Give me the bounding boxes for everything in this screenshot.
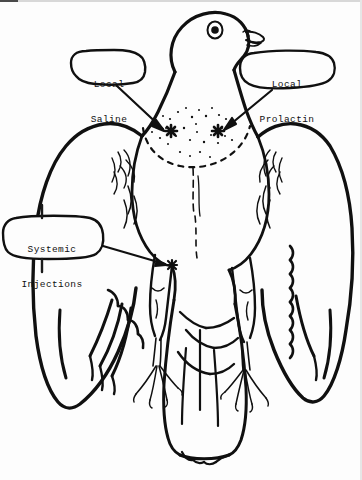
scan-edge-top-dark [0,0,18,2]
injection-marker-local-saline [165,125,177,137]
scan-edge-top [0,0,362,2]
injection-marker-local-prolactin [212,125,224,137]
callout-bubble-local-saline [71,50,145,85]
callout-bubble-systemic [3,216,103,259]
callout-bubble-local-prolactin [240,51,335,89]
pigeon-diagram-svg [0,0,362,480]
eye-pupil [211,26,219,34]
figure-root: Local Saline Local Prolactin Systemic In… [0,0,362,480]
